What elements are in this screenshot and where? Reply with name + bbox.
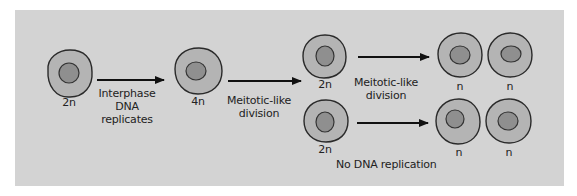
arrow-label-division-1: Meitotic-like division: [222, 94, 296, 120]
cell-replicated-icon: [175, 48, 222, 94]
cell-label-parent: 2n: [58, 96, 80, 109]
cell-label-daughter-top: 2n: [314, 78, 336, 91]
cell-label-gamete-top-2: n: [500, 80, 520, 93]
cell-label-gamete-top-1: n: [450, 80, 470, 93]
cell-label-replicated: 4n: [187, 95, 209, 108]
cell-label-daughter-bottom: 2n: [314, 143, 336, 156]
arrow-label-division-2-bottom: No DNA replication: [336, 158, 434, 171]
arrow-label-division-2-top: Meitotic-like division: [349, 76, 423, 102]
cell-label-gamete-bottom-1: n: [449, 146, 469, 159]
cell-parent-icon: [48, 50, 92, 97]
arrow-label-interphase: Interphase DNA replicates: [91, 87, 163, 126]
cell-gamete-top-2-icon: [488, 33, 532, 77]
cell-gamete-bottom-1-icon: [436, 99, 480, 144]
cell-label-gamete-bottom-2: n: [499, 146, 519, 159]
cell-gamete-top-1-icon: [438, 33, 482, 77]
cell-daughter-bottom-icon: [304, 100, 348, 142]
cell-gamete-bottom-2-icon: [486, 99, 531, 143]
cell-daughter-top-icon: [303, 35, 346, 78]
